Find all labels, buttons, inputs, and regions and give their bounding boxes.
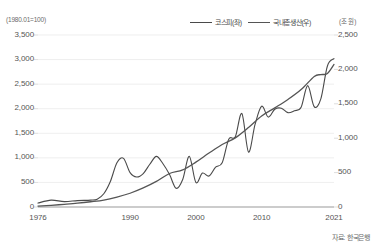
source-note: 자료: 한국은행	[332, 232, 370, 242]
right-axis-tick-label: 500	[338, 168, 378, 176]
right-axis-tick-label: 1,000	[338, 134, 378, 142]
plot-area	[0, 0, 378, 248]
series-line-kospi	[38, 59, 334, 203]
right-axis-tick-label: 2,500	[338, 31, 378, 39]
x-axis-tick-label: 2021	[312, 214, 356, 222]
left-axis-tick-label: 500	[0, 178, 34, 186]
right-axis-tick-label: 1,500	[338, 99, 378, 107]
left-axis-tick-label: 0	[0, 203, 34, 211]
left-axis-tick-label: 3,500	[0, 31, 34, 39]
left-axis-tick-label: 2,500	[0, 80, 34, 88]
right-axis-tick-label: 0	[338, 203, 378, 211]
left-axis-tick-label: 1,000	[0, 153, 34, 161]
x-axis-tick-label: 1990	[108, 214, 152, 222]
x-axis-tick-label: 1976	[16, 214, 60, 222]
x-axis-tick-label: 2010	[240, 214, 284, 222]
left-axis-tick-label: 1,500	[0, 129, 34, 137]
x-axis-tick-label: 2000	[174, 214, 218, 222]
chart-container: (1980.01=100) (조 원) 코스피(좌) 국내총생산(우) 자료: …	[0, 0, 378, 248]
series-line-gdp	[38, 64, 334, 206]
left-axis-tick-label: 2,000	[0, 104, 34, 112]
right-axis-tick-label: 2,000	[338, 65, 378, 73]
left-axis-tick-label: 3,000	[0, 55, 34, 63]
